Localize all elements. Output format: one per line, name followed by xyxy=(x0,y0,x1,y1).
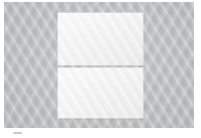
image-canvas xyxy=(0,0,201,138)
lower-light-panel xyxy=(58,68,143,118)
lower-panel-shading xyxy=(58,68,143,118)
upper-light-panel xyxy=(58,13,143,65)
upper-panel-shading xyxy=(58,13,143,65)
faint-bottom-mark xyxy=(13,132,22,134)
